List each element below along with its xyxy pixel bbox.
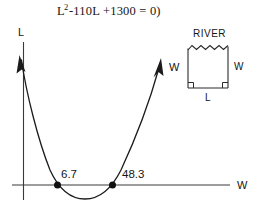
equation-text: L 2 -110L +1300 = 0) [57,2,161,18]
right-branch-w-label: W [169,61,180,73]
river-wave-edge [188,46,228,51]
rect-bottom-label: L [205,92,211,103]
river-title: RIVER [193,28,226,39]
root-point-right[interactable] [109,182,116,189]
root-label-right: 48.3 [122,168,144,180]
figure-container: L 2 -110L +1300 = 0) L W W 6.7 48.3 RIVE [0,0,261,206]
river-diagram: RIVER W L [188,28,244,103]
figure-svg: L 2 -110L +1300 = 0) L W W 6.7 48.3 RIVE [0,0,261,206]
x-axis-label: W [237,179,248,191]
equation-exponent: 2 [64,2,68,12]
corner-mark-left [188,83,194,89]
rect-side-label: W [234,61,244,72]
root-point-left[interactable] [54,182,61,189]
equation-rest: -110L +1300 = 0) [69,4,161,18]
right-branch-arrowhead [154,58,164,78]
corner-mark-right [223,83,229,89]
left-branch-arrowhead [17,55,26,74]
root-label-left: 6.7 [61,168,77,180]
y-axis-label: L [18,26,24,38]
